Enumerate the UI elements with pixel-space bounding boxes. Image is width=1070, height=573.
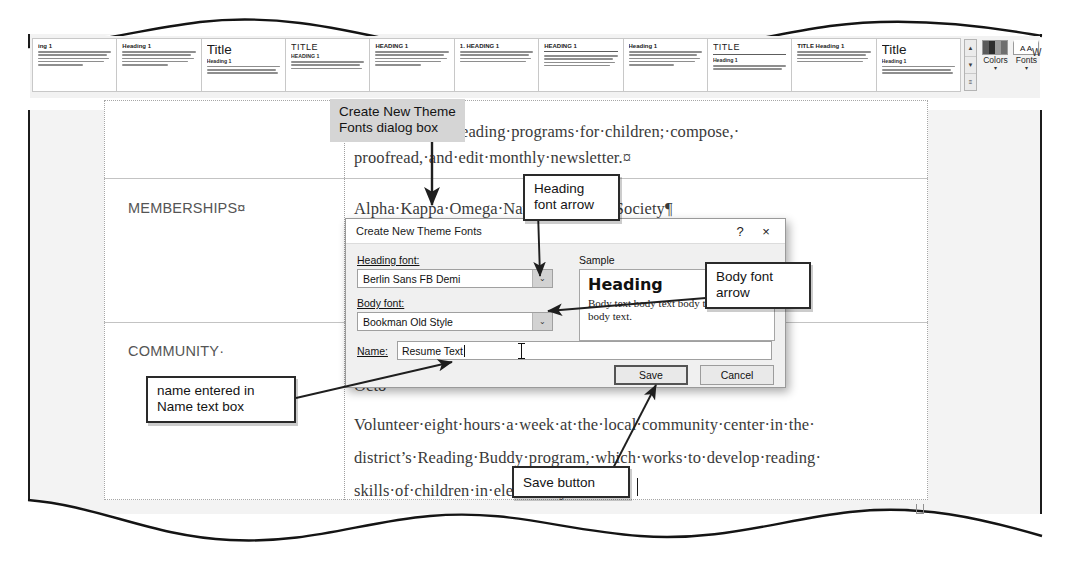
callout-heading-font-arrow: Heading font arrow: [523, 174, 620, 221]
callout-name-text-box: name entered in Name text box: [146, 376, 296, 423]
screenshot-root: ing 1 Heading 1 Title Heading 1 TITLE HE…: [0, 0, 1070, 573]
callout-body-font-arrow: Body font arrow: [705, 262, 811, 309]
callout-save-button: Save button: [512, 466, 630, 498]
callout-dialog-box: Create New Theme Fonts dialog box: [330, 99, 465, 142]
